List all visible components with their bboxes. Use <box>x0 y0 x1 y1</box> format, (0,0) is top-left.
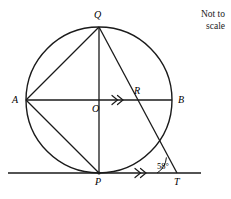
label-point-O: O <box>92 103 99 114</box>
label-point-Q: Q <box>94 9 101 20</box>
geometry-figure-page: Not to scale Q A B O R P T 58° <box>0 0 231 199</box>
chord-AQ <box>26 27 99 100</box>
chord-AP <box>26 100 99 173</box>
angle-label-58-degrees: 58° <box>157 161 169 171</box>
not-to-scale-line1: Not to <box>169 8 225 20</box>
label-point-A: A <box>12 94 18 105</box>
label-point-B: B <box>178 94 184 105</box>
label-point-P: P <box>95 176 101 187</box>
label-point-T: T <box>174 176 180 187</box>
not-to-scale-line2: scale <box>169 20 225 32</box>
not-to-scale-note: Not to scale <box>169 8 225 32</box>
label-point-R: R <box>134 85 140 96</box>
point-dot-P <box>97 171 100 174</box>
